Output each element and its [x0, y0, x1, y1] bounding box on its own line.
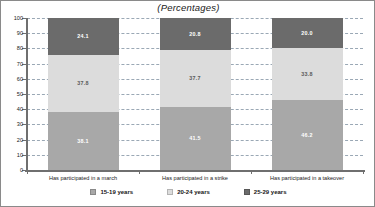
- y-axis-tick-label: 50: [17, 91, 23, 97]
- bar-segment[interactable]: 38.1: [48, 112, 119, 170]
- y-axis-tick-label: 20: [17, 137, 23, 143]
- y-axis-tick-label: 80: [17, 45, 23, 51]
- legend-label: 25-29 years: [254, 189, 287, 195]
- bar-series-container: 38.137.824.141.537.720.846.233.820.0: [27, 18, 363, 170]
- chart-title: (Percentages): [1, 2, 375, 13]
- bar-segment[interactable]: 20.0: [272, 18, 343, 48]
- bar-stack: 46.233.820.0: [272, 18, 343, 170]
- x-axis-category-label: Has participated in a takeover: [270, 175, 344, 181]
- bar-stack: 41.537.720.8: [160, 18, 231, 170]
- y-axis-tick-label: 30: [17, 121, 23, 127]
- bar-segment[interactable]: 37.8: [48, 55, 119, 112]
- legend-label: 20-24 years: [177, 189, 210, 195]
- x-tick-mark: [27, 170, 28, 174]
- x-axis: Has participated in a marchHas participa…: [27, 170, 363, 186]
- bar-group[interactable]: 38.137.824.1: [48, 18, 119, 170]
- bar-value-label: 37.8: [77, 80, 88, 86]
- bar-value-label: 37.7: [189, 75, 200, 81]
- y-axis-tick-label: 90: [17, 30, 23, 36]
- bar-value-label: 33.8: [301, 71, 312, 77]
- y-axis-tick-label: 40: [17, 106, 23, 112]
- y-axis-tick-label: 60: [17, 76, 23, 82]
- legend-item[interactable]: 25-29 years: [244, 189, 287, 195]
- bar-segment[interactable]: 46.2: [272, 100, 343, 170]
- bar-segment[interactable]: 20.8: [160, 18, 231, 50]
- plot-area: 38.137.824.141.537.720.846.233.820.0 010…: [27, 18, 363, 170]
- x-axis-category-label: Has participated in a march: [49, 175, 117, 181]
- x-axis-category-label: Has participated in a strike: [162, 175, 228, 181]
- legend-item[interactable]: 20-24 years: [167, 189, 210, 195]
- legend-swatch-icon: [167, 189, 173, 195]
- bar-segment[interactable]: 37.7: [160, 50, 231, 107]
- bar-segment[interactable]: 41.5: [160, 107, 231, 170]
- legend-item[interactable]: 15-19 years: [90, 189, 133, 195]
- bar-value-label: 46.2: [301, 132, 312, 138]
- legend-swatch-icon: [90, 189, 96, 195]
- y-axis-tick-label: 10: [17, 152, 23, 158]
- bar-segment[interactable]: 33.8: [272, 48, 343, 99]
- bar-group[interactable]: 46.233.820.0: [272, 18, 343, 170]
- bar-segment[interactable]: 24.1: [48, 18, 119, 55]
- chart-legend: 15-19 years20-24 years25-29 years: [1, 189, 375, 195]
- chart-figure: (Percentages) 38.137.824.141.537.720.846…: [0, 0, 375, 207]
- legend-label: 15-19 years: [100, 189, 133, 195]
- x-tick-mark: [363, 170, 364, 174]
- bar-value-label: 20.0: [301, 30, 312, 36]
- y-axis-tick-label: 0: [20, 167, 23, 173]
- x-tick-mark: [139, 170, 140, 174]
- bar-stack: 38.137.824.1: [48, 18, 119, 170]
- y-axis-tick-label: 100: [14, 15, 23, 21]
- bar-value-label: 24.1: [77, 33, 88, 39]
- y-axis-tick-label: 70: [17, 61, 23, 67]
- bar-group[interactable]: 41.537.720.8: [160, 18, 231, 170]
- bar-value-label: 38.1: [77, 138, 88, 144]
- x-tick-mark: [251, 170, 252, 174]
- legend-swatch-icon: [244, 189, 250, 195]
- bar-value-label: 41.5: [189, 135, 200, 141]
- bar-value-label: 20.8: [189, 31, 200, 37]
